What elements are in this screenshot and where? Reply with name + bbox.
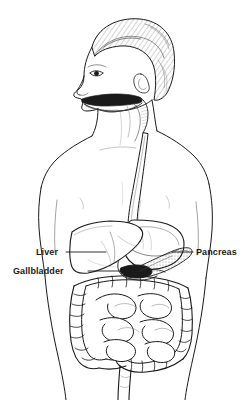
right-arm — [196, 184, 212, 278]
esophagus — [128, 133, 148, 226]
digestive-system-figure: Liver Gallbladder Pancreas — [0, 0, 249, 400]
small-intestine — [96, 294, 175, 363]
label-liver: Liver — [36, 247, 58, 257]
open-mouth — [82, 94, 142, 111]
label-gallbladder: Gallbladder — [13, 266, 64, 276]
eye — [88, 65, 106, 76]
label-pancreas: Pancreas — [196, 247, 237, 257]
ear — [134, 74, 149, 93]
nose — [77, 76, 88, 95]
hair — [92, 19, 175, 100]
anatomy-illustration — [0, 0, 249, 400]
left-arm — [39, 188, 57, 276]
shoulders — [41, 131, 209, 188]
